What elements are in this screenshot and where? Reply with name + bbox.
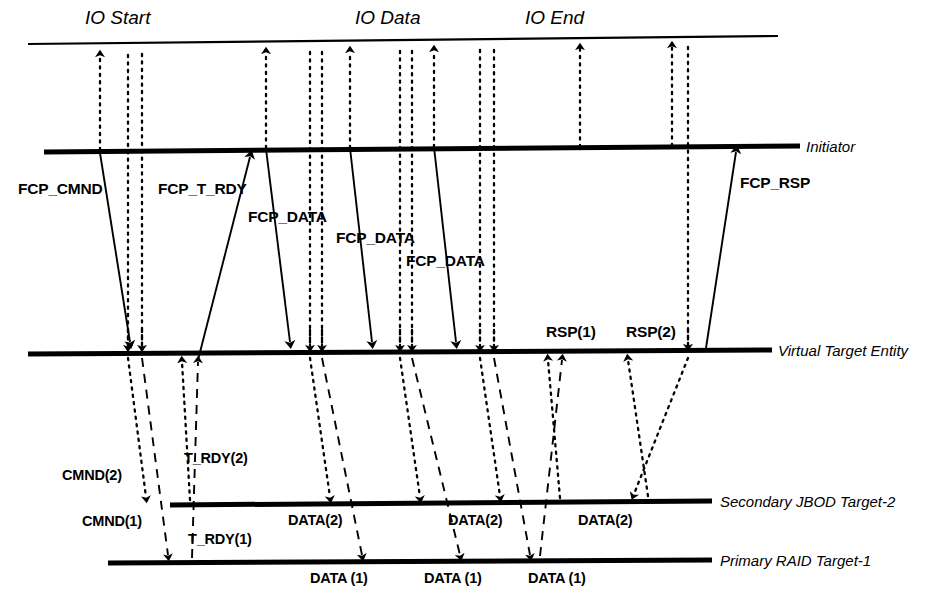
diagram-canvas: IO Start IO Data IO End Initiator Virtua… (0, 0, 942, 604)
entity-label-virtual-target-entity: Virtual Target Entity (778, 342, 910, 359)
entity-labels: Initiator Virtual Target Entity Secondar… (720, 138, 910, 569)
message-label-fcp-data-2: FCP_DATA (336, 229, 415, 246)
arrow-fcp-rsp (706, 152, 736, 348)
phase-label-io-start: IO Start (85, 7, 151, 28)
phase-labels: IO Start IO Data IO End (85, 7, 586, 28)
lifeline-primary-raid-target-1 (108, 560, 712, 563)
vte-guide-heads (128, 330, 688, 346)
entity-label-initiator: Initiator (806, 138, 856, 155)
message-label-data-2-a: DATA(2) (288, 512, 343, 528)
message-label-fcp-t-rdy: FCP_T_RDY (158, 180, 247, 197)
arrow-rsp-1-up (548, 360, 560, 498)
message-label-rsp-1: RSP(1) (546, 323, 596, 340)
message-label-fcp-data-3: FCP_DATA (406, 252, 485, 269)
phase-label-io-end: IO End (525, 7, 586, 28)
message-label-data-1-a: DATA (1) (310, 570, 368, 586)
vte-jbod-messages (128, 358, 688, 500)
arrow-fcp-data-1 (266, 149, 290, 342)
fcp-sequence-diagram: IO Start IO Data IO End Initiator Virtua… (0, 0, 942, 604)
message-label-data-1-c: DATA (1) (528, 570, 586, 586)
arrow-t-rdy-2 (182, 362, 190, 500)
lifeline-timeline (28, 36, 778, 44)
event-tick-lines (100, 47, 688, 350)
message-label-fcp-data-1: FCP_DATA (248, 208, 327, 225)
message-label-t-rdy-2: T_RDY(2) (184, 450, 248, 466)
arrow-data-2-d (634, 358, 688, 494)
arrow-cmnd-1 (142, 358, 168, 555)
entity-label-primary-raid-target-1: Primary RAID Target-1 (720, 552, 871, 569)
arrow-fcp-data-3 (434, 147, 456, 342)
arrow-fcp-cmnd (100, 153, 130, 342)
message-label-data-2-c: DATA(2) (578, 512, 633, 528)
phase-label-io-data: IO Data (355, 7, 420, 28)
message-labels: FCP_CMND FCP_T_RDY FCP_DATA FCP_DATA FCP… (18, 174, 810, 586)
entity-label-secondary-jbod-target-2: Secondary JBOD Target-2 (720, 493, 896, 510)
lifeline-secondary-jbod-target-2 (170, 501, 712, 505)
message-label-fcp-cmnd: FCP_CMND (18, 180, 103, 197)
arrow-cmnd-2 (128, 358, 146, 497)
arrow-rsp-2-up (628, 360, 648, 496)
lifeline-initiator (44, 146, 800, 152)
arrow-rsp-1-raid-up (540, 360, 562, 556)
message-label-cmnd-2: CMND(2) (62, 467, 122, 483)
message-label-cmnd-1: CMND(1) (82, 513, 142, 529)
message-label-t-rdy-1: T_RDY(1) (188, 531, 252, 547)
lifeline-virtual-target-entity (28, 350, 772, 354)
message-label-data-1-b: DATA (1) (424, 570, 482, 586)
message-label-data-2-b: DATA(2) (448, 512, 503, 528)
message-label-fcp-rsp: FCP_RSP (740, 174, 810, 191)
message-label-rsp-2: RSP(2) (626, 323, 676, 340)
